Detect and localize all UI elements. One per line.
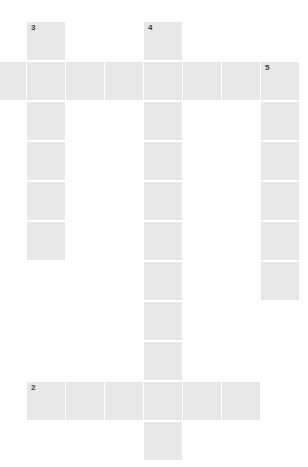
crossword-cell[interactable] <box>27 102 65 140</box>
crossword-cell[interactable] <box>144 382 182 420</box>
crossword-cell[interactable] <box>144 142 182 180</box>
crossword-cell[interactable] <box>144 422 182 460</box>
crossword-cell[interactable] <box>144 262 182 300</box>
crossword-cell[interactable] <box>27 62 65 100</box>
crossword-cell[interactable] <box>261 222 299 260</box>
crossword-cell[interactable] <box>105 382 143 420</box>
crossword-cell[interactable] <box>27 182 65 220</box>
crossword-cell[interactable] <box>105 62 143 100</box>
crossword-cell[interactable] <box>66 382 104 420</box>
crossword-cell[interactable] <box>144 182 182 220</box>
crossword-cell[interactable] <box>144 102 182 140</box>
crossword-cell[interactable] <box>144 302 182 340</box>
crossword-cell[interactable] <box>144 62 182 100</box>
crossword-cell[interactable] <box>222 382 260 420</box>
clue-number: 4 <box>148 24 152 32</box>
crossword-cell[interactable]: 5 <box>261 62 299 100</box>
crossword-cell[interactable] <box>222 62 260 100</box>
crossword-cell[interactable] <box>0 62 26 100</box>
crossword-cell[interactable] <box>261 102 299 140</box>
crossword-cell[interactable] <box>144 342 182 380</box>
crossword-cell[interactable]: 3 <box>27 22 65 60</box>
clue-number: 3 <box>31 24 35 32</box>
crossword-cell[interactable] <box>261 182 299 220</box>
clue-number: 5 <box>265 64 269 72</box>
crossword-cell[interactable] <box>66 62 104 100</box>
crossword-cell[interactable]: 4 <box>144 22 182 60</box>
crossword-cell[interactable] <box>261 262 299 300</box>
crossword-cell[interactable] <box>27 222 65 260</box>
crossword-cell[interactable] <box>183 62 221 100</box>
crossword-cell[interactable] <box>27 142 65 180</box>
crossword-cell[interactable] <box>183 382 221 420</box>
crossword-cell[interactable] <box>261 142 299 180</box>
crossword-cell[interactable]: 2 <box>27 382 65 420</box>
crossword-cell[interactable] <box>144 222 182 260</box>
clue-number: 2 <box>31 384 35 392</box>
crossword-grid: 3452 <box>0 0 308 467</box>
